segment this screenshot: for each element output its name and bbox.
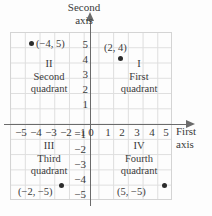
y-tick-1: 1	[74, 99, 88, 110]
vertical-axis-title-line2: axis	[56, 14, 112, 27]
quadrant-four-name: Fourth	[104, 153, 174, 166]
x-tick-minus5: −5	[13, 127, 29, 138]
x-tick-3: 3	[129, 127, 145, 138]
quadrant-two-name: Second	[14, 71, 84, 84]
point-label-minus4-5: (−4, 5)	[36, 38, 65, 49]
quadrant-one-name: First	[104, 71, 174, 84]
vertical-axis-title: Second axis	[56, 1, 112, 26]
point-label-minus2-minus5: (−2, −5)	[18, 186, 53, 197]
quadrant-three-word: quadrant	[14, 165, 84, 178]
quadrant-label-one: I First quadrant	[104, 58, 174, 96]
horizontal-axis-title-line2: axis	[176, 138, 212, 151]
quadrant-label-two: II Second quadrant	[14, 58, 84, 96]
horizontal-axis-title: First axis	[176, 125, 212, 150]
y-tick-minus5: −5	[72, 189, 86, 200]
horizontal-axis-title-line1: First	[176, 125, 212, 138]
quadrant-three-roman: III	[14, 140, 84, 153]
point-marker-5-minus5	[162, 183, 167, 188]
quadrant-one-roman: I	[104, 58, 174, 71]
vertical-axis-line	[90, 18, 91, 206]
y-tick-minus1: −1	[72, 129, 86, 140]
coordinate-plane-figure: Second axis First axis −5 −4 −3 −2 −1 0 …	[0, 0, 212, 216]
quadrant-four-word: quadrant	[104, 165, 174, 178]
vertical-axis-title-line1: Second	[56, 1, 112, 14]
x-tick-5: 5	[158, 127, 174, 138]
point-label-2-4: (2, 4)	[104, 42, 127, 53]
x-tick-minus4: −4	[28, 127, 44, 138]
x-tick-minus3: −3	[43, 127, 59, 138]
quadrant-label-four: IV Fourth quadrant	[104, 140, 174, 178]
quadrant-one-word: quadrant	[104, 83, 174, 96]
y-tick-5: 5	[74, 39, 88, 50]
point-marker-minus2-minus5	[59, 183, 64, 188]
quadrant-three-name: Third	[14, 153, 84, 166]
quadrant-label-three: III Third quadrant	[14, 140, 84, 178]
point-marker-2-4	[118, 56, 123, 61]
point-marker-minus4-5	[29, 41, 34, 46]
point-label-5-minus5: (5, −5)	[117, 186, 146, 197]
quadrant-two-roman: II	[14, 58, 84, 71]
x-tick-2: 2	[114, 127, 130, 138]
quadrant-four-roman: IV	[104, 140, 174, 153]
quadrant-two-word: quadrant	[14, 83, 84, 96]
